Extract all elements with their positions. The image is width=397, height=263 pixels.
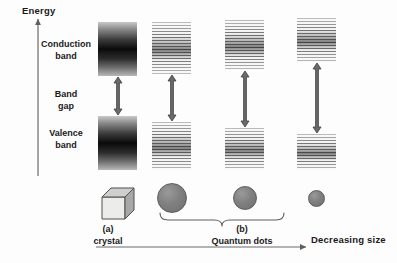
quantum-dot-band-diagram: Energy Decreasing size Conduction band B… [0, 0, 397, 263]
conduction-band-label: Conduction band [32, 38, 100, 62]
valence-band-qd-large [152, 122, 191, 170]
valence-band-qd-small [297, 134, 336, 170]
quantum-dot-fill [308, 190, 325, 207]
conduction-band-qd-medium [225, 20, 264, 70]
conduction-band-label-line2: band [32, 50, 100, 62]
quantum-dot-fill [157, 183, 187, 213]
quantum-dot-circle-qd-medium [233, 186, 257, 210]
valence-band-label-line2: band [34, 139, 98, 151]
band-gap-arrow-qd-large [162, 73, 182, 123]
decreasing-size-axis-label: Decreasing size [311, 234, 386, 245]
band-gap-label: Band gap [38, 88, 94, 112]
quantum-dot-circle-qd-small [308, 190, 325, 207]
caption-crystal-text: crystal [72, 235, 144, 247]
quantum-dot-fill [233, 186, 257, 210]
band-gap-arrow-qd-small [307, 61, 327, 135]
conduction-band-qd-small [297, 18, 336, 62]
caption-crystal: (a) crystal [72, 223, 144, 247]
conduction-band-qd-large [152, 22, 191, 74]
crystal-cube-icon [98, 184, 138, 224]
band-gap-label-line1: Band [38, 88, 94, 100]
quantum-dot-circle-qd-large [157, 183, 187, 213]
conduction-band-crystal [98, 22, 137, 76]
band-gap-arrow-qd-medium [235, 69, 255, 129]
band-gap-arrow-crystal [108, 75, 128, 117]
conduction-band-label-line1: Conduction [32, 38, 100, 50]
band-gap-label-line2: gap [38, 100, 94, 112]
caption-quantum-dots-text: Quantum dots [190, 235, 294, 247]
valence-band-label-line1: Valence [34, 127, 98, 139]
valence-band-label: Valence band [34, 127, 98, 151]
caption-quantum-dots-tag: (b) [190, 223, 294, 235]
valence-band-crystal [98, 116, 137, 170]
energy-axis-label: Energy [22, 5, 55, 16]
caption-crystal-tag: (a) [72, 223, 144, 235]
caption-quantum-dots: (b) Quantum dots [190, 223, 294, 247]
valence-band-qd-medium [225, 128, 264, 170]
